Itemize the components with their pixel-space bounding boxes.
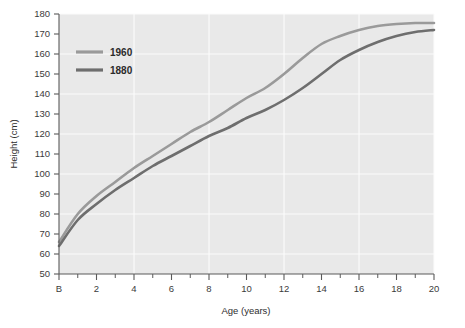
y-tick-label: 80: [39, 208, 50, 219]
y-tick-label: 90: [39, 188, 50, 199]
x-tick-label: 2: [94, 283, 99, 294]
legend-label-1880: 1880: [110, 65, 133, 76]
x-tick-label: 4: [131, 283, 136, 294]
x-tick-label: 16: [354, 283, 365, 294]
y-tick-label: 140: [34, 88, 50, 99]
y-tick-label: 70: [39, 228, 50, 239]
x-tick-label: 18: [391, 283, 402, 294]
y-tick-label: 60: [39, 248, 50, 259]
x-tick-label: 10: [241, 283, 252, 294]
y-axis-title: Height (cm): [8, 119, 19, 168]
x-tick-label: 12: [279, 283, 290, 294]
y-tick-label: 130: [34, 108, 50, 119]
legend-label-1960: 1960: [110, 47, 133, 58]
chart-canvas: 5060708090100110120130140150160170180 B2…: [0, 0, 465, 328]
x-tick-label: 14: [316, 283, 327, 294]
y-tick-label: 170: [34, 28, 50, 39]
y-tick-label: 180: [34, 8, 50, 19]
x-tick-label: B: [56, 283, 62, 294]
y-tick-label: 160: [34, 48, 50, 59]
height-growth-chart: 5060708090100110120130140150160170180 B2…: [0, 0, 465, 328]
x-tick-label: 6: [169, 283, 174, 294]
x-tick-label: 8: [206, 283, 211, 294]
x-axis-title: Age (years): [221, 305, 270, 316]
y-tick-label: 50: [39, 268, 50, 279]
x-tick-label: 20: [429, 283, 440, 294]
y-tick-label: 100: [34, 168, 50, 179]
y-tick-label: 110: [35, 148, 50, 159]
y-tick-label: 120: [34, 128, 50, 139]
y-tick-label: 150: [34, 68, 50, 79]
